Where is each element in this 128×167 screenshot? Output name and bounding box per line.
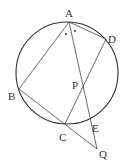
- angle-mark-dot-1: [65, 33, 67, 35]
- label-C: C: [59, 131, 66, 143]
- geometry-diagram: A D B P E C Q: [0, 0, 128, 167]
- label-E: E: [92, 122, 99, 134]
- label-D: D: [108, 33, 116, 45]
- segment-AB: [19, 22, 69, 89]
- label-P: P: [72, 79, 78, 91]
- segment-BQ: [19, 89, 97, 149]
- label-Q: Q: [99, 148, 107, 160]
- angle-mark-dot-2: [74, 30, 76, 32]
- label-A: A: [65, 7, 73, 19]
- label-B: B: [8, 90, 15, 102]
